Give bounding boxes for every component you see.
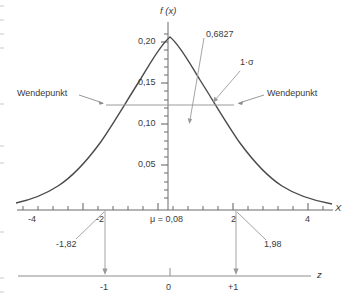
probability-leader — [188, 38, 204, 124]
annotation-x-value-minus-1-82: -1,82 — [56, 240, 77, 249]
z-tick-label-0: 0 — [166, 283, 171, 292]
z-axis — [18, 268, 311, 276]
y-tick-label-0-10: 0,10 — [138, 119, 156, 128]
y-tick-label-0-15: 0,15 — [138, 78, 156, 87]
annotation-probability-0-6827: 0,6827 — [206, 30, 234, 39]
annotation-wendepunkt-right: Wendepunkt — [267, 89, 317, 98]
x-axis — [17, 203, 333, 210]
wendepunkt-left-leader — [79, 95, 104, 105]
x-axis-ticks — [23, 203, 323, 210]
y-axis-ticks — [161, 34, 168, 198]
x-tick-label-2: 2 — [231, 215, 236, 224]
z-tick-label-plus-1: +1 — [228, 283, 238, 292]
z-axis-title: z — [317, 270, 322, 280]
y-tick-label-0-20: 0,20 — [138, 37, 156, 46]
y-tick-label-0-05: 0,05 — [138, 160, 156, 169]
normal-curve — [16, 37, 332, 204]
figure-container: f (x) X z 0,20 0,15 0,10 0,05 -4 -2 μ = … — [0, 0, 348, 306]
x-value-right-leader — [237, 212, 266, 240]
scan-edge-artifacts — [0, 6, 4, 292]
x-tick-label-4: 4 — [305, 215, 310, 224]
x-tick-label-minus-2: -2 — [96, 215, 104, 224]
y-axis-title: f (x) — [160, 6, 176, 16]
y-axis — [161, 22, 168, 210]
annotation-wendepunkt-left: Wendepunkt — [17, 89, 67, 98]
x-tick-label-mu: μ = 0,08 — [150, 215, 183, 224]
wendepunkt-right-leader — [238, 95, 265, 105]
annotation-one-sigma: 1·σ — [240, 58, 254, 67]
annotation-x-value-1-98: 1,98 — [264, 240, 282, 249]
x-tick-label-minus-4: -4 — [28, 215, 36, 224]
z-tick-label-minus-1: -1 — [100, 283, 108, 292]
x-axis-title: X — [335, 203, 341, 213]
normal-distribution-chart — [0, 0, 348, 306]
sigma-leader — [213, 71, 240, 103]
